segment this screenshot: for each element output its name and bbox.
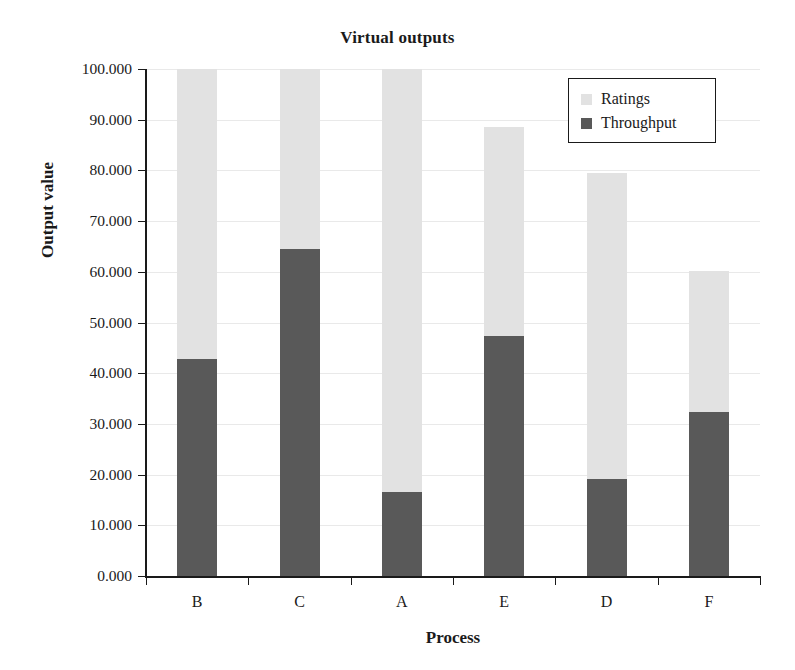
bar-stack <box>382 69 422 576</box>
x-tick-mark <box>760 576 761 585</box>
bar-stack <box>484 127 524 576</box>
y-tick-mark <box>138 576 146 577</box>
x-tick-label: C <box>294 593 305 611</box>
gridline <box>146 272 760 273</box>
x-tick-mark <box>555 576 556 585</box>
x-tick-mark <box>146 576 147 585</box>
y-tick-mark <box>138 525 146 526</box>
gridline <box>146 525 760 526</box>
bar-segment-ratings <box>382 69 422 492</box>
y-tick-mark <box>138 272 146 273</box>
y-tick-label: 70.000 <box>89 212 132 230</box>
y-tick-mark <box>138 69 146 70</box>
plot-area: 0.00010.00020.00030.00040.00050.00060.00… <box>146 69 760 576</box>
gridline <box>146 475 760 476</box>
y-tick-mark <box>138 323 146 324</box>
bar-stack <box>689 271 729 576</box>
y-tick-label: 80.000 <box>89 161 132 179</box>
legend-label-throughput: Throughput <box>601 114 677 132</box>
y-tick-label: 90.000 <box>89 111 132 129</box>
x-tick-label: D <box>601 593 613 611</box>
y-tick-label: 20.000 <box>89 466 132 484</box>
bar-segment-ratings <box>177 69 217 359</box>
bar-segment-throughput <box>484 336 524 576</box>
y-tick-mark <box>138 120 146 121</box>
x-tick-label: E <box>499 593 509 611</box>
x-tick-label: B <box>192 593 203 611</box>
bar-segment-throughput <box>280 249 320 576</box>
y-tick-label: 40.000 <box>89 364 132 382</box>
bar-stack <box>587 173 627 576</box>
gridline <box>146 323 760 324</box>
x-tick-label: F <box>704 593 713 611</box>
bar-segment-throughput <box>587 479 627 576</box>
bar-segment-ratings <box>587 173 627 479</box>
bar-segment-throughput <box>382 492 422 576</box>
bar-stack <box>280 69 320 576</box>
gridline <box>146 221 760 222</box>
legend-swatch-ratings-icon <box>581 94 592 105</box>
legend-label-ratings: Ratings <box>601 90 650 108</box>
bar-segment-ratings <box>280 69 320 249</box>
y-tick-label: 30.000 <box>89 415 132 433</box>
bar-segment-ratings <box>689 271 729 412</box>
y-tick-mark <box>138 373 146 374</box>
x-tick-mark <box>248 576 249 585</box>
y-tick-label: 60.000 <box>89 263 132 281</box>
legend-swatch-throughput-icon <box>581 118 592 129</box>
bar-segment-throughput <box>177 359 217 576</box>
x-tick-mark <box>351 576 352 585</box>
x-axis-title: Process <box>146 628 760 648</box>
chart-title: Virtual outputs <box>0 28 795 48</box>
y-tick-mark <box>138 424 146 425</box>
y-tick-label: 0.000 <box>97 567 132 585</box>
y-axis-title: Output value <box>38 100 58 320</box>
x-tick-label: A <box>396 593 408 611</box>
x-tick-mark <box>453 576 454 585</box>
bar-stack <box>177 69 217 576</box>
y-tick-label: 10.000 <box>89 516 132 534</box>
y-tick-mark <box>138 170 146 171</box>
y-tick-mark <box>138 221 146 222</box>
legend-item-ratings: Ratings <box>581 90 705 108</box>
y-tick-mark <box>138 475 146 476</box>
bar-segment-throughput <box>689 412 729 576</box>
gridline <box>146 373 760 374</box>
y-tick-label: 100.000 <box>82 60 132 78</box>
x-tick-mark <box>658 576 659 585</box>
legend-item-throughput: Throughput <box>581 114 705 132</box>
chart-figure: Virtual outputs Output value Process 0.0… <box>0 0 795 670</box>
gridline <box>146 170 760 171</box>
y-tick-label: 50.000 <box>89 314 132 332</box>
chart-legend: Ratings Throughput <box>568 78 716 143</box>
bar-segment-ratings <box>484 127 524 335</box>
gridline <box>146 424 760 425</box>
gridline <box>146 69 760 70</box>
